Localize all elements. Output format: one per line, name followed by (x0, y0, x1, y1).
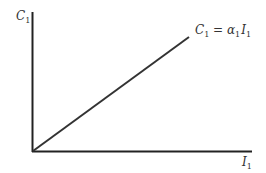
proportional-line (33, 37, 189, 151)
diagram-canvas: C1 I1 C1 = α1I1 (0, 0, 266, 173)
equation-label: C1 = α1I1 (195, 23, 251, 39)
y-axis-label: C1 (16, 9, 30, 25)
x-axis-label: I1 (241, 155, 252, 171)
